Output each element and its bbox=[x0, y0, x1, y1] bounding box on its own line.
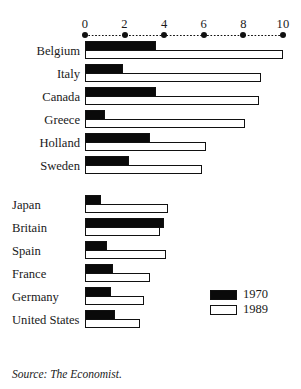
bar-1989 bbox=[85, 273, 150, 282]
bar-1989 bbox=[85, 204, 168, 213]
bar-pair bbox=[85, 287, 144, 305]
x-tick-label: 2 bbox=[121, 17, 127, 32]
table-row: Japan bbox=[0, 194, 301, 217]
legend: 1970 1989 bbox=[210, 288, 268, 318]
country-label: Germany bbox=[12, 291, 59, 304]
table-row: Canada bbox=[0, 86, 301, 109]
country-label: Japan bbox=[12, 199, 41, 212]
x-tick-label: 6 bbox=[201, 17, 207, 32]
bar-chart: 0246810 BelgiumItalyCanadaGreeceHollandS… bbox=[0, 0, 301, 389]
x-tick-label: 4 bbox=[161, 17, 167, 32]
x-tick-dot bbox=[161, 32, 167, 38]
bar-1989 bbox=[85, 142, 206, 151]
country-label: Holland bbox=[39, 137, 80, 150]
country-label: France bbox=[12, 268, 46, 281]
bar-1989 bbox=[85, 296, 144, 305]
x-tick-dot bbox=[201, 32, 207, 38]
table-row: France bbox=[0, 263, 301, 286]
bar-1989 bbox=[85, 319, 140, 328]
bar-pair bbox=[85, 195, 168, 213]
bar-1989 bbox=[85, 73, 261, 82]
source-note: Source: The Economist. bbox=[12, 368, 122, 380]
x-tick-dot bbox=[82, 32, 88, 38]
x-tick-label: 10 bbox=[277, 17, 290, 32]
country-label: Italy bbox=[57, 68, 80, 81]
bar-pair bbox=[85, 241, 166, 259]
bar-1989 bbox=[85, 50, 283, 59]
country-label: United States bbox=[12, 314, 80, 327]
bar-pair bbox=[85, 87, 259, 105]
bar-pair bbox=[85, 41, 283, 59]
legend-label-1989: 1989 bbox=[243, 303, 268, 316]
country-label: Belgium bbox=[37, 45, 80, 58]
bar-pair bbox=[85, 218, 164, 236]
table-row: Italy bbox=[0, 63, 301, 86]
bar-pair bbox=[85, 64, 261, 82]
bar-pair bbox=[85, 133, 206, 151]
legend-item: 1989 bbox=[210, 303, 268, 316]
bar-1989 bbox=[85, 250, 166, 259]
legend-item: 1970 bbox=[210, 288, 268, 301]
bar-pair bbox=[85, 156, 202, 174]
x-axis: 0246810 bbox=[0, 0, 301, 40]
group-separator bbox=[0, 178, 301, 194]
x-tick-dot bbox=[240, 32, 246, 38]
table-row: Spain bbox=[0, 240, 301, 263]
table-row: Belgium bbox=[0, 40, 301, 63]
bar-1989 bbox=[85, 119, 245, 128]
table-row: Britain bbox=[0, 217, 301, 240]
x-tick-dot bbox=[122, 32, 128, 38]
legend-swatch-1989 bbox=[210, 305, 237, 315]
country-label: Canada bbox=[42, 91, 80, 104]
x-axis-dotted-line bbox=[85, 35, 283, 36]
legend-label-1970: 1970 bbox=[243, 288, 268, 301]
bar-pair bbox=[85, 310, 140, 328]
country-label: Britain bbox=[12, 222, 47, 235]
table-row: Holland bbox=[0, 132, 301, 155]
bar-pair bbox=[85, 110, 245, 128]
bar-pair bbox=[85, 264, 150, 282]
country-label: Greece bbox=[44, 114, 80, 127]
table-row: Sweden bbox=[0, 155, 301, 178]
x-tick-dot bbox=[280, 32, 286, 38]
bar-1989 bbox=[85, 165, 202, 174]
country-label: Spain bbox=[12, 245, 41, 258]
x-tick-label: 8 bbox=[240, 17, 246, 32]
x-tick-label: 0 bbox=[82, 17, 88, 32]
country-label: Sweden bbox=[40, 160, 80, 173]
table-row: Greece bbox=[0, 109, 301, 132]
bar-1989 bbox=[85, 96, 259, 105]
legend-swatch-1970 bbox=[210, 290, 237, 300]
bar-1989 bbox=[85, 227, 160, 236]
